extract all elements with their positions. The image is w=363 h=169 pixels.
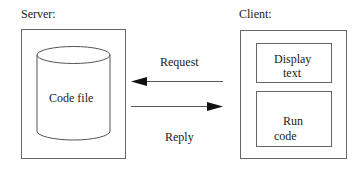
server-label: Server: (21, 7, 56, 21)
display-text-line1: Display (274, 52, 311, 66)
code-file-label: Code file (49, 91, 93, 105)
client-label: Client: (239, 7, 272, 21)
run-code-line2: code (274, 129, 297, 143)
reply-label: Reply (165, 130, 194, 144)
request-label: Request (160, 55, 199, 69)
request-arrow (131, 77, 223, 86)
run-code-line1: Run (283, 114, 303, 128)
client-server-diagram: Server: Code file Request Reply Client: … (0, 0, 363, 169)
reply-arrow (131, 102, 223, 111)
display-text-line2: text (283, 66, 302, 80)
